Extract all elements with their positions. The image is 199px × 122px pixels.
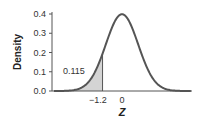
- y-axis-label: Density: [12, 34, 23, 71]
- x-tick-neg-1-2: −1.2: [89, 95, 107, 105]
- normal-density-chart: 0.00.10.20.30.4 −1.2 0 Z Density 0.115: [0, 0, 199, 122]
- x-tick-0: 0: [119, 95, 124, 105]
- density-curve: [54, 14, 191, 91]
- area-annotation: 0.115: [63, 66, 85, 76]
- x-axis-label: Z: [118, 106, 127, 118]
- y-tick-label: 0.3: [33, 28, 46, 38]
- y-tick-label: 0.2: [33, 48, 46, 58]
- y-tick-label: 0.1: [33, 67, 46, 77]
- y-ticks: 0.00.10.20.30.4: [33, 9, 52, 96]
- y-tick-label: 0.0: [33, 86, 46, 96]
- y-tick-label: 0.4: [33, 9, 46, 19]
